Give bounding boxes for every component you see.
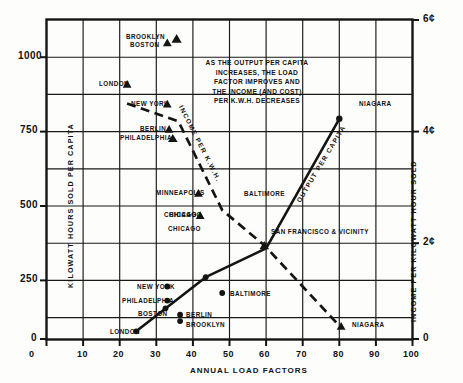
marker-niagara-circle [336, 116, 342, 122]
point-label-london-triangle: LONDON [99, 80, 129, 87]
x-tick-100: 100 [403, 349, 419, 359]
y-tick-left-1000: 1000 [18, 50, 42, 61]
x-tick-20: 20 [113, 349, 124, 359]
point-label-sanfrancisco-triangle: SAN FRANCISCO & VICINITY [271, 228, 369, 235]
marker-niagara-triangle [337, 322, 346, 330]
annotation-line-3: FACTOR IMPROVES AND [196, 77, 318, 87]
chart-annotation: AS THE OUTPUT PER CAPITA INCREASES, THE … [196, 58, 318, 106]
marker-brooklyn-triangle [172, 34, 182, 43]
point-label-brooklyn-triangle: BROOKLYN [126, 33, 165, 40]
y-tick-left-750: 750 [20, 124, 38, 135]
marker-brooklyn-circle [177, 318, 183, 324]
annotation-line-2: INCREASES, THE LOAD [196, 68, 318, 78]
y-tick-right-2c: 2¢ [423, 236, 435, 247]
marker-baltimore-circle [219, 290, 225, 296]
point-label-philadelphia-triangle: PHILADELPHIA [120, 134, 172, 141]
point-label-niagara-triangle: NIAGARA [352, 321, 385, 328]
point-label-philadelphia-circle: PHILADELPHIA [122, 297, 174, 304]
point-label-newyork-circle: NEW YORK [137, 283, 175, 290]
point-label-boston-circle: BOSTON [138, 310, 168, 317]
point-label-chicago-circle-2: CHICAGO [168, 225, 201, 232]
chart-figure: 1000 750 500 250 0 6¢ 4¢ 2¢ 0 0 10 20 30… [0, 0, 463, 383]
point-label-london-circle: LONDON [110, 328, 140, 335]
annotation-line-1: AS THE OUTPUT PER CAPITA [196, 58, 318, 68]
point-label-baltimore-circle: BALTIMORE [230, 290, 271, 297]
y-axis-right-title: INCOME PER KILOWATT HOUR SOLD [409, 160, 418, 322]
x-tick-40: 40 [186, 349, 197, 359]
point-label-boston-triangle: BOSTON [130, 41, 160, 48]
point-label-berlin-triangle: BERLIN [140, 125, 166, 132]
x-tick-30: 30 [150, 349, 161, 359]
y-tick-left-500: 500 [20, 199, 38, 210]
y-tick-right-4c: 4¢ [423, 125, 435, 136]
y-axis-left-title: KILOWATT HOURS SOLD PER CAPITA [66, 123, 75, 288]
x-tick-90: 90 [369, 349, 380, 359]
point-label-newyork-triangle: NEW YORK [131, 100, 169, 107]
point-label-minneapolis-triangle: MINNEAPOLIS [156, 189, 205, 196]
y-tick-right-6c: 6¢ [423, 13, 435, 24]
point-label-brooklyn-circle: BROOKLYN [186, 321, 225, 328]
point-label-berlin-circle: BERLIN [186, 311, 212, 318]
x-tick-50: 50 [223, 349, 234, 359]
x-axis-title: ANNUAL LOAD FACTORS [190, 366, 308, 375]
y-tick-left-250: 250 [20, 273, 38, 284]
y-tick-right-0: 0 [423, 332, 429, 343]
annotation-line-5: PER K.W.H. DECREASES [196, 96, 318, 106]
x-tick-80: 80 [333, 349, 344, 359]
point-label-baltimore-triangle: BALTIMORE [244, 190, 285, 197]
annotation-line-4: THE INCOME (AND COST) [196, 87, 318, 97]
x-tick-0: 0 [29, 349, 34, 359]
x-tick-10: 10 [77, 349, 88, 359]
x-tick-70: 70 [296, 349, 307, 359]
marker-chicago-circle [203, 274, 209, 280]
x-tick-60: 60 [259, 349, 270, 359]
y-tick-left-0: 0 [31, 332, 37, 343]
marker-berlin-circle [177, 312, 183, 318]
point-label-chicago-circle: CHICAGO [169, 211, 202, 218]
point-label-niagara-circle: NIAGARA [359, 100, 392, 107]
